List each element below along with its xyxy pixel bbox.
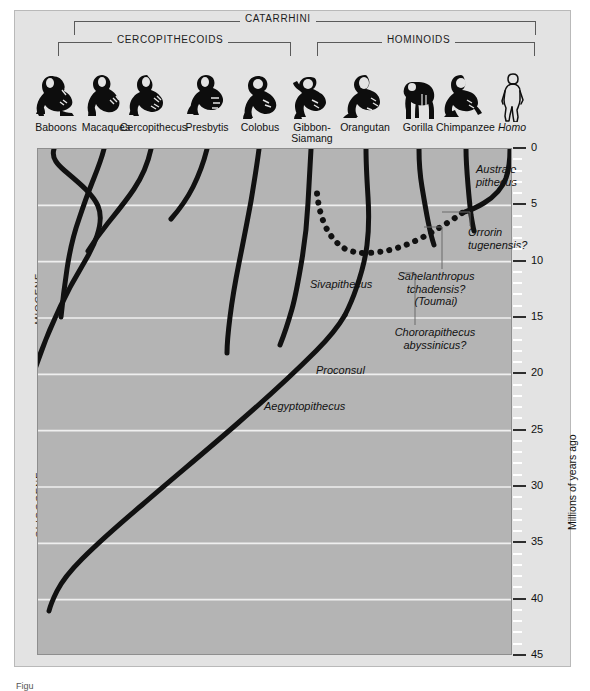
axis-tick-31 [513,496,522,498]
axis-tick-22 [513,395,522,397]
bracket-label-hominoids: HOMINOIDS [382,34,455,45]
taxon-label-homo: Homo [483,122,541,133]
axis-tick-29 [513,474,522,476]
axis-tick-1 [513,158,522,160]
axis-tick-34 [513,530,522,532]
taxon-label-gibbon-siamang: Gibbon- Siamang [283,122,341,144]
lineage-baboons [38,149,100,609]
axis-tick-36 [513,553,522,555]
axis-tick-39 [513,586,522,588]
taxon-label-presbytis: Presbytis [178,122,236,133]
taxon-label-orangutan: Orangutan [336,122,394,133]
axis-ticklabel-25: 25 [531,423,543,435]
axis-tick-3 [513,181,522,183]
axis-tick-45 [513,654,526,656]
axis-tick-19 [513,361,522,363]
fossil-label-sahelanthropus-tchadensis: Sahelanthropus tchadensis? (Toumai) [376,270,496,308]
figure-root: CATARRHINI CERCOPITHECOIDS HOMINOIDS Bab… [0,0,590,691]
taxon-cercopithecus: Cercopithecus [120,70,178,133]
axis-tick-16 [513,327,522,329]
monkey-silhouette-icon [231,70,289,122]
bracket-label-cercopithecoids: CERCOPITHECOIDS [112,34,228,45]
axis-tick-38 [513,575,522,577]
axis-ticklabel-45: 45 [531,648,543,660]
axis-tick-18 [513,350,522,352]
axis-tick-43 [513,631,522,633]
taxon-label-cercopithecus: Cercopithecus [120,122,178,133]
axis-tick-44 [513,643,522,645]
axis-ticklabel-20: 20 [531,366,543,378]
axis-tick-30 [513,485,526,487]
axis-tick-28 [513,462,522,464]
axis-tick-14 [513,305,522,307]
fossil-label-aegyptopithecus: Aegyptopithecus [264,400,345,413]
axis-tick-40 [513,598,526,600]
lineage-colobus [227,149,259,353]
human-silhouette-icon [483,70,541,122]
taxon-colobus: Colobus [231,70,289,133]
taxon-presbytis: Presbytis [178,70,236,133]
axis-tick-5 [513,203,526,205]
taxon-gibbon-siamang: Gibbon- Siamang [283,70,341,144]
lineage-gibbon-siamang [280,149,311,345]
axis-tick-10 [513,260,526,262]
axis-tick-37 [513,564,522,566]
monkey-silhouette-icon [120,70,178,122]
axis-tick-35 [513,541,526,543]
lineage-hominin-stem [317,193,462,253]
axis-tick-15 [513,316,526,318]
taxon-label-colobus: Colobus [231,122,289,133]
axis-tick-25 [513,429,526,431]
orangutan-silhouette-icon [336,70,394,122]
monkey-silhouette-icon [178,70,236,122]
axis-tick-33 [513,519,522,521]
axis-ticklabel-5: 5 [531,197,537,209]
axis-tick-42 [513,620,522,622]
gibbon-silhouette-icon [283,70,341,122]
fossil-label-australopithecus: Australo- pithecus [476,163,520,188]
axis-ticklabel-35: 35 [531,535,543,547]
axis-tick-4 [513,192,522,194]
taxon-orangutan: Orangutan [336,70,394,133]
axis-ticklabel-40: 40 [531,592,543,604]
axis-tick-27 [513,451,522,453]
taxon-homo: Homo [483,70,541,133]
axis-tick-41 [513,609,522,611]
axis-tick-24 [513,417,522,419]
figure-caption: Figu [16,681,34,691]
label-leader-lines [401,212,470,325]
fossil-label-chororapithecus-abyssinicus: Chororapithecus abyssinicus? [373,326,497,351]
axis-tick-20 [513,372,526,374]
axis-ticklabel-10: 10 [531,254,543,266]
axis-tick-6 [513,215,522,217]
axis-tick-0 [513,147,526,149]
axis-tick-11 [513,271,522,273]
bracket-label-catarrhini: CATARRHINI [240,13,316,24]
axis-tick-23 [513,406,522,408]
axis-tick-2 [513,170,522,172]
axis-tick-13 [513,293,522,295]
axis-tick-32 [513,508,522,510]
axis-ticklabel-30: 30 [531,479,543,491]
axis-tick-12 [513,282,522,284]
axis-tick-7 [513,226,522,228]
axis-ticklabel-15: 15 [531,310,543,322]
axis-tick-26 [513,440,522,442]
lineage-presbytis [171,149,207,219]
axis-ticklabel-0: 0 [531,141,537,153]
lineage-paths [38,149,510,611]
fossil-label-sivapithecus: Sivapithecus [310,278,372,291]
lineage-proconsul-trunk [49,315,345,611]
axis-tick-9 [513,248,522,250]
axis-tick-21 [513,384,522,386]
fossil-label-proconsul: Proconsul [316,364,365,377]
axis-title-millions-of-years-ago: Millions of years ago [566,434,578,530]
axis-tick-17 [513,339,522,341]
axis-tick-8 [513,237,522,239]
